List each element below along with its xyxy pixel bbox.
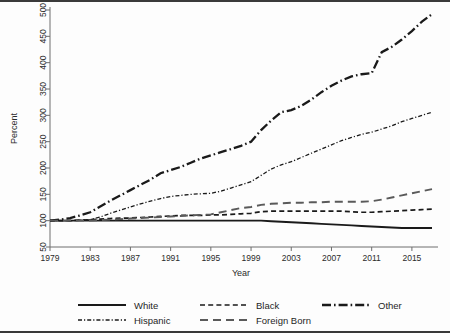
- series-line-white: [50, 221, 432, 228]
- x-tick-label: 2011: [363, 253, 382, 263]
- y-tick-label: 500: [38, 3, 48, 17]
- y-tick-label: 400: [38, 55, 48, 69]
- legend-label-foreign-born: Foreign Born: [256, 315, 311, 326]
- series-line-hispanic: [50, 112, 432, 221]
- x-tick-label: 2015: [402, 253, 421, 263]
- legend-label-white: White: [134, 300, 158, 311]
- x-tick-label: 1991: [161, 253, 180, 263]
- y-tick-label: 300: [38, 108, 48, 122]
- y-tick-label: 350: [38, 82, 48, 96]
- legend-label-hispanic: Hispanic: [134, 315, 171, 326]
- chart-figure: 50100150200250300350400450500Percent1979…: [0, 0, 450, 333]
- y-axis-title: Percent: [9, 112, 19, 144]
- legend-label-other: Other: [378, 300, 402, 311]
- x-tick-label: 1987: [121, 253, 140, 263]
- x-tick-label: 1999: [242, 253, 261, 263]
- x-tick-label: 2007: [322, 253, 341, 263]
- line-chart-canvas: 50100150200250300350400450500Percent1979…: [0, 0, 450, 333]
- y-tick-label: 50: [38, 242, 48, 252]
- x-tick-label: 1983: [81, 253, 100, 263]
- x-tick-label: 1995: [201, 253, 220, 263]
- series-line-foreign-born: [50, 189, 432, 221]
- x-tick-label: 2003: [282, 253, 301, 263]
- y-tick-label: 150: [38, 187, 48, 201]
- x-tick-label: 1979: [41, 253, 60, 263]
- y-tick-label: 250: [38, 134, 48, 148]
- legend-label-black: Black: [256, 300, 279, 311]
- y-tick-label: 450: [38, 29, 48, 43]
- series-line-other: [50, 14, 432, 220]
- x-axis-title: Year: [232, 268, 250, 278]
- y-tick-label: 100: [38, 213, 48, 227]
- y-tick-label: 200: [38, 161, 48, 175]
